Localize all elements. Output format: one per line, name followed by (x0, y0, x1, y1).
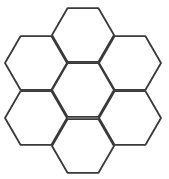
hexagon-honeycomb-diagram (0, 0, 169, 179)
